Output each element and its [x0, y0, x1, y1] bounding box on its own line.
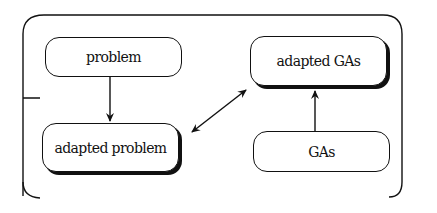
edge-adapted-problem-adapted-gas — [192, 90, 246, 132]
node-problem: problem — [45, 37, 182, 77]
node-adapted-gas: adapted GAs — [250, 36, 387, 86]
node-label: adapted problem — [54, 140, 166, 156]
node-label: problem — [86, 49, 141, 65]
node-label: GAs — [308, 144, 335, 160]
node-gas: GAs — [253, 131, 390, 172]
node-label: adapted GAs — [277, 53, 361, 69]
diagram-canvas — [0, 0, 437, 213]
node-adapted-problem: adapted problem — [42, 123, 179, 172]
